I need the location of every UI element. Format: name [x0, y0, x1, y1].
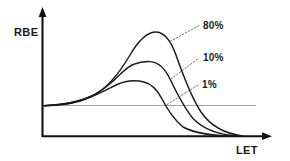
rbe-vs-let-figure: 80% 10% 1% RBE LET: [0, 0, 290, 161]
curve-label-80-percent: 80%: [203, 20, 224, 31]
y-axis-label: RBE: [14, 26, 38, 38]
curve-label-1-percent: 1%: [202, 79, 217, 90]
curve-label-10-percent: 10%: [203, 52, 224, 63]
x-axis-label: LET: [236, 144, 258, 156]
